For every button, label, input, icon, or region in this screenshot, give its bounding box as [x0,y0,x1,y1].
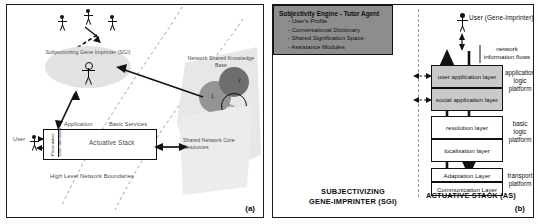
layer-resolution: resolution layer [431,116,503,139]
platform-line: platform [509,136,532,143]
layer-resolution-label: resolution layer [446,124,488,131]
layer-adaptation: Adaptation Layer [431,168,503,182]
panel-a: Subjectivizing Gene Imprinter (SGI) 1 2 … [6,4,264,218]
layer-adaptation-label: Adaptation Layer [444,172,491,179]
layer-localisation-label: localisation layer [444,147,490,154]
layer-user-application: user application layer [431,65,503,88]
panel-b-figure-label: (b) [515,204,525,213]
platform-basic-logic: basic logic platform [505,120,534,145]
caption-sgi-line2: GENE-IMPRINTER (SGI) [309,197,397,206]
platform-line: platform [509,85,532,92]
caption-sgi: SUBJECTIVIZING GENE-IMPRINTER (SGI) [289,187,417,207]
panel-b: User (Gene-Imprinter) network informatio… [272,4,534,218]
caption-sgi-line1: SUBJECTIVIZING [321,187,385,196]
platform-line: application [505,69,534,76]
layer-social-application: social application layer [431,88,503,111]
platform-line: logic [514,128,527,135]
platform-line: transport [508,172,533,179]
layer-localisation: localisation layer [431,139,503,162]
platform-line: logic [514,77,527,84]
layer-social-application-label: social application layer [436,96,498,103]
platform-application-logic: application logic platform [505,69,534,94]
figure-root: Subjectivizing Gene Imprinter (SGI) 1 2 … [0,0,538,224]
caption-actuative-stack: ACTUATIVE STACK (AS) [423,191,519,201]
stack-core-arrow [7,5,263,217]
platform-transport: transport platform [505,172,534,188]
platform-line: platform [509,180,532,187]
network-boundaries-label: High Level Network Boundaries [27,173,157,180]
panel-a-figure-label: (a) [245,204,255,213]
platform-line: basic [513,120,528,127]
layer-user-application-label: user application layer [438,73,496,80]
